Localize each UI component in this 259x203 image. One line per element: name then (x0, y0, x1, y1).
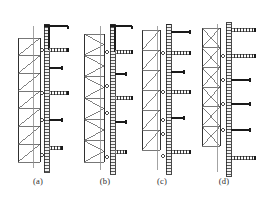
connection-node (40, 48, 43, 51)
connection-node (105, 111, 108, 114)
connection-node (105, 155, 108, 158)
mast-column (226, 22, 231, 176)
panel-caption-b: (b) (93, 176, 117, 186)
connection-node (40, 91, 43, 94)
arm-hatched (171, 150, 190, 153)
mast-column (44, 24, 49, 172)
arm-hatched (171, 51, 190, 54)
panel-caption-d: (d) (212, 176, 236, 186)
arm-hatched (231, 156, 255, 159)
connection-node (161, 118, 164, 121)
arm-hatched (115, 150, 126, 153)
arm-hatched (115, 50, 132, 53)
panel-caption-a: (a) (26, 176, 50, 186)
arm-hatched (49, 91, 68, 94)
connection-node (161, 154, 164, 157)
panel-caption-c: (c) (150, 176, 174, 186)
connection-node (40, 118, 43, 121)
connection-node (105, 84, 108, 87)
connection-node (161, 90, 164, 93)
figure-container: (a)(b)(c)(d) (0, 0, 259, 203)
arm-hatched (171, 90, 190, 93)
connection-node (221, 128, 224, 131)
arm-hatched (49, 48, 68, 51)
connection-node (221, 54, 224, 57)
mast-column (110, 24, 115, 174)
figure-drawing (0, 0, 259, 203)
caption-row: (a)(b)(c)(d) (0, 176, 259, 192)
arm-hatched (49, 146, 62, 149)
arm-hatched (231, 54, 255, 57)
arm-hatched (115, 96, 132, 99)
connection-node (161, 51, 164, 54)
connection-node (105, 50, 108, 53)
connection-node (221, 102, 224, 105)
arm-hatched (231, 28, 255, 31)
connection-node (221, 78, 224, 81)
connection-node (40, 153, 43, 156)
connection-node (161, 132, 164, 135)
mast-column (166, 24, 171, 174)
